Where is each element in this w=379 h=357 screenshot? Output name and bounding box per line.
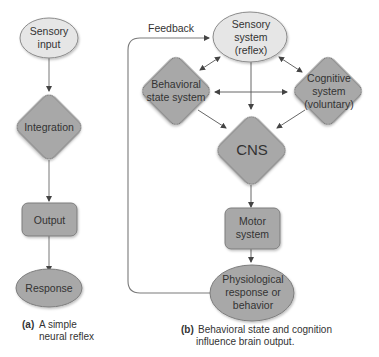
node-label: state system — [147, 91, 206, 103]
node-label: behavior — [233, 299, 274, 311]
caption-text: neural reflex — [39, 331, 94, 342]
neural-reflex-diagram: Sensory input Integration Output Respons… — [0, 0, 379, 357]
arrow-sensory-behavioral — [200, 57, 220, 70]
node-label: system — [236, 228, 270, 240]
node-label: (reflex) — [235, 44, 268, 56]
caption-a: (a) A simple neural reflex — [22, 319, 94, 342]
caption-text: influence brain output. — [196, 336, 294, 347]
node-motor-system: Motor system — [225, 208, 280, 249]
node-label: system — [234, 31, 268, 43]
node-label: Sensory — [30, 25, 69, 37]
caption-text: Behavioral state and cognition — [198, 324, 332, 335]
panel-a: Sensory input Integration Output Respons… — [14, 18, 94, 342]
node-label: Physiological — [222, 273, 283, 285]
node-behavioral-state-system: Behavioral state system — [139, 54, 213, 128]
caption-label: (b) — [181, 324, 194, 335]
node-label: Output — [34, 214, 66, 226]
node-cns: CNS — [214, 113, 289, 188]
panel-b: Feedback Sensory system (reflex) Behavio… — [128, 12, 365, 347]
node-cognitive-system: Cognitive system (voluntary) — [291, 54, 365, 128]
node-label: Behavioral — [151, 78, 201, 90]
node-physiological-response: Physiological response or behavior — [210, 265, 294, 321]
arrow-behavioral-cns — [198, 110, 226, 128]
arrow-cognitive-cns — [277, 110, 305, 128]
feedback-label: Feedback — [148, 22, 195, 34]
caption-text: A simple — [39, 319, 77, 330]
node-label: response or — [225, 286, 281, 298]
node-label: (voluntary) — [304, 98, 354, 110]
node-label: Motor — [239, 215, 266, 227]
node-sensory-input: Sensory input — [20, 18, 78, 58]
node-label: Cognitive — [307, 72, 351, 84]
node-label: Response — [25, 282, 72, 294]
node-output: Output — [22, 203, 77, 236]
node-label: Sensory — [232, 18, 271, 30]
node-integration: Integration — [14, 92, 85, 163]
caption-label: (a) — [22, 319, 34, 330]
node-label: CNS — [236, 141, 268, 158]
node-label: Integration — [24, 121, 74, 133]
arrow-sensory-cognitive — [279, 57, 302, 72]
node-response: Response — [16, 269, 82, 307]
caption-b: (b) Behavioral state and cognition influ… — [181, 324, 332, 347]
node-label: system — [312, 85, 346, 97]
node-label: input — [38, 38, 61, 50]
node-sensory-system: Sensory system (reflex) — [213, 12, 287, 62]
